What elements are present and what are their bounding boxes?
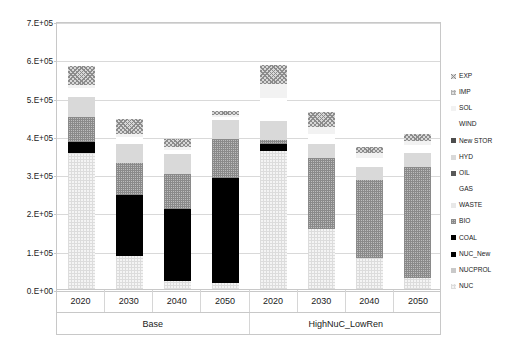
legend-label: IMP bbox=[459, 89, 471, 96]
legend-swatch-icon bbox=[451, 252, 456, 257]
legend-swatch-icon bbox=[451, 284, 456, 289]
bar-segment-nuc bbox=[308, 229, 335, 289]
legend-item[interactable]: NUCPROL bbox=[451, 262, 509, 278]
legend-item[interactable]: OIL bbox=[451, 165, 509, 181]
bar-segment-nuc-new bbox=[260, 144, 287, 151]
bar-segment-nuc bbox=[212, 283, 239, 289]
legend-item[interactable]: EXP bbox=[451, 68, 509, 84]
legend-swatch-icon bbox=[451, 155, 456, 160]
legend-item[interactable]: COAL bbox=[451, 230, 509, 246]
y-axis-tick-mark bbox=[54, 138, 57, 139]
bar-segment-sol bbox=[212, 115, 239, 117]
bar-segment-hyd bbox=[260, 121, 287, 139]
bar-segment-wind bbox=[164, 150, 191, 155]
bar-segment-sol bbox=[404, 141, 431, 145]
legend-item[interactable]: HYD bbox=[451, 149, 509, 165]
bar-segment-nuc bbox=[260, 151, 287, 289]
bar-segment-nuc bbox=[356, 258, 383, 289]
x-axis-year-label: 2040 bbox=[346, 290, 394, 312]
x-axis-year-label: 2030 bbox=[298, 290, 346, 312]
legend-label: BIO bbox=[459, 218, 470, 225]
legend-label: WIND bbox=[459, 121, 477, 128]
legend-swatch-icon bbox=[451, 203, 456, 208]
y-axis-tick-label: 4.E+05 bbox=[7, 133, 53, 142]
legend-label: SOL bbox=[459, 105, 472, 112]
bar-segment-bio bbox=[260, 140, 287, 145]
y-axis-tick-mark bbox=[54, 100, 57, 101]
legend-item[interactable]: NUC_New bbox=[451, 246, 509, 262]
stacked-bar-chart: 0.E+001.E+052.E+053.E+054.E+055.E+056.E+… bbox=[0, 0, 509, 347]
x-axis-year-labels: 20202030204020502020203020402050 bbox=[56, 290, 441, 313]
bar-segment-wind bbox=[212, 117, 239, 120]
legend-swatch-icon bbox=[451, 235, 456, 240]
y-axis-tick-mark bbox=[54, 176, 57, 177]
bar-segment-hyd bbox=[116, 144, 143, 163]
bar-segment-wind bbox=[404, 145, 431, 153]
y-axis-tick-mark bbox=[54, 214, 57, 215]
legend-item[interactable]: New STOR bbox=[451, 133, 509, 149]
legend-swatch-icon bbox=[451, 74, 456, 79]
bar-segment-exp bbox=[308, 112, 335, 127]
bar-segment-exp bbox=[260, 65, 287, 84]
bar-segment-nuc-new bbox=[116, 195, 143, 256]
legend-swatch-icon bbox=[451, 187, 456, 192]
x-axis-group-labels: BaseHighNuC_LowRen bbox=[56, 313, 441, 335]
stacked-bar bbox=[260, 21, 287, 289]
bar-segment-nuc-new bbox=[212, 178, 239, 283]
bar-segment-sol bbox=[164, 147, 191, 149]
stacked-bar bbox=[116, 21, 143, 289]
y-axis-tick-label: 2.E+05 bbox=[7, 210, 53, 219]
legend-item[interactable]: WIND bbox=[451, 117, 509, 133]
bar-segment-nuc bbox=[404, 278, 431, 289]
y-axis-tick-mark bbox=[54, 61, 57, 62]
bar-segment-nuc bbox=[116, 256, 143, 289]
stacked-bar bbox=[356, 21, 383, 289]
x-axis-year-label: 2050 bbox=[201, 290, 249, 312]
stacked-bar bbox=[68, 21, 95, 289]
bar-segment-wind bbox=[116, 137, 143, 144]
legend-swatch-icon bbox=[451, 90, 456, 95]
legend-label: WASTE bbox=[459, 202, 482, 209]
bar-segment-exp bbox=[212, 111, 239, 116]
y-axis-tick-label: 5.E+05 bbox=[7, 95, 53, 104]
y-axis-tick-label: 0.E+00 bbox=[7, 287, 53, 296]
stacked-bar bbox=[404, 21, 431, 289]
legend-item[interactable]: NUC bbox=[451, 278, 509, 294]
bar-segment-hyd bbox=[404, 153, 431, 166]
x-axis-year-label: 2020 bbox=[57, 290, 105, 312]
legend-item[interactable]: GAS bbox=[451, 181, 509, 197]
bar-segment-exp bbox=[404, 134, 431, 141]
legend-label: HYD bbox=[459, 154, 473, 161]
legend-item[interactable]: WASTE bbox=[451, 198, 509, 214]
y-axis-tick-label: 1.E+05 bbox=[7, 248, 53, 257]
bar-segment-nuc-new bbox=[68, 142, 95, 153]
legend-label: NUCPROL bbox=[459, 267, 491, 274]
y-axis-tick-label: 3.E+05 bbox=[7, 172, 53, 181]
bar-segment-exp bbox=[356, 147, 383, 154]
legend-item[interactable]: SOL bbox=[451, 100, 509, 116]
bar-segment-bio bbox=[164, 174, 191, 208]
legend-label: NUC bbox=[459, 283, 473, 290]
legend-swatch-icon bbox=[451, 268, 456, 273]
x-axis-year-label: 2050 bbox=[394, 290, 442, 312]
legend: EXPIMPSOLWINDNew STORHYDOILGASWASTEBIOCO… bbox=[451, 68, 509, 295]
legend-swatch-icon bbox=[451, 219, 456, 224]
bar-segment-exp bbox=[116, 119, 143, 133]
stacked-bar bbox=[308, 21, 335, 289]
y-axis-tick-label: 7.E+05 bbox=[7, 19, 53, 28]
bar-segment-bio bbox=[356, 180, 383, 258]
y-axis-tick-label: 6.E+05 bbox=[7, 57, 53, 66]
bar-segment-sol bbox=[68, 85, 95, 89]
x-axis-year-label: 2040 bbox=[153, 290, 201, 312]
bar-segment-hyd bbox=[68, 97, 95, 117]
bar-segment-sol bbox=[356, 153, 383, 158]
stacked-bar bbox=[212, 21, 239, 289]
legend-item[interactable]: BIO bbox=[451, 214, 509, 230]
legend-item[interactable]: IMP bbox=[451, 84, 509, 100]
y-axis-tick-mark bbox=[54, 253, 57, 254]
bar-segment-nuc-new bbox=[164, 209, 191, 281]
legend-label: COAL bbox=[459, 235, 477, 242]
bar-segment-sol bbox=[308, 127, 335, 134]
bar-segment-nuc bbox=[68, 153, 95, 289]
bar-segment-sol bbox=[116, 134, 143, 137]
